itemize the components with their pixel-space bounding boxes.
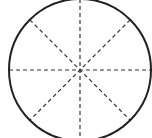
center-point [79,69,81,71]
circle-diagram [0,0,152,138]
